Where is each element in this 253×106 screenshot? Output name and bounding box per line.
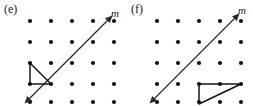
grid-dot [91,40,95,44]
grid-dot [49,19,53,23]
line-label-m-e: m [111,8,119,19]
grid-dot [176,19,180,23]
grid-dot [70,40,74,44]
grid-dot [112,40,116,44]
panel-f-drawing [127,0,253,106]
grid-dot [176,61,180,65]
triangle-e [30,63,51,84]
grid-dot [155,19,159,23]
figure-container: (e) [0,0,253,106]
grid-dot [218,19,222,23]
grid-dot [239,100,243,104]
grid-dot [70,61,74,65]
grid-dot [70,82,74,86]
grid-dot [155,82,159,86]
grid-dot [112,82,116,86]
grid-dot [112,61,116,65]
grid-dot [28,40,32,44]
grid-dot [112,100,116,104]
grid-dot [155,61,159,65]
grid-dot [176,40,180,44]
line-label-m-f: m [238,5,246,16]
grid-dot [112,19,116,23]
figure-panel-f: (f) [127,0,253,106]
grid-dot [91,61,95,65]
grid-dot [91,82,95,86]
grid-dot [197,40,201,44]
grid-dot [218,61,222,65]
figure-panel-e: (e) [0,0,126,106]
grid-dot [91,19,95,23]
grid-dot [197,19,201,23]
grid-dot [70,100,74,104]
grid-dot [49,61,53,65]
grid-dot [176,82,180,86]
dot-grid-e [28,19,116,104]
grid-dot [49,100,53,104]
grid-dot [239,40,243,44]
grid-dot [176,100,180,104]
grid-dot [28,19,32,23]
grid-dot [91,100,95,104]
grid-dot [239,61,243,65]
panel-e-drawing [0,0,126,106]
grid-dot [155,40,159,44]
grid-dot [218,40,222,44]
grid-dot [70,19,74,23]
grid-dot [239,19,243,23]
grid-dot [49,40,53,44]
grid-dot [197,61,201,65]
grid-dot [218,100,222,104]
line-m-e [25,16,113,104]
line-m-f [150,14,240,104]
